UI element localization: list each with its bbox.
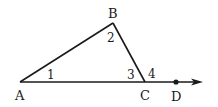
angle-1-label: 1 [47, 68, 55, 82]
label-a: A [14, 88, 25, 103]
side-ab [20, 23, 113, 82]
triangle-diagram: B A C D 1 2 3 4 [0, 0, 218, 107]
angle-2-label: 2 [107, 31, 115, 45]
angle-3-label: 3 [127, 68, 135, 82]
diagram-svg: B A C D 1 2 3 4 [0, 0, 218, 107]
label-c: C [140, 88, 150, 103]
label-b: B [108, 6, 118, 21]
point-d-dot [173, 79, 178, 84]
angle-4-label: 4 [148, 67, 156, 81]
label-d: D [171, 89, 181, 104]
